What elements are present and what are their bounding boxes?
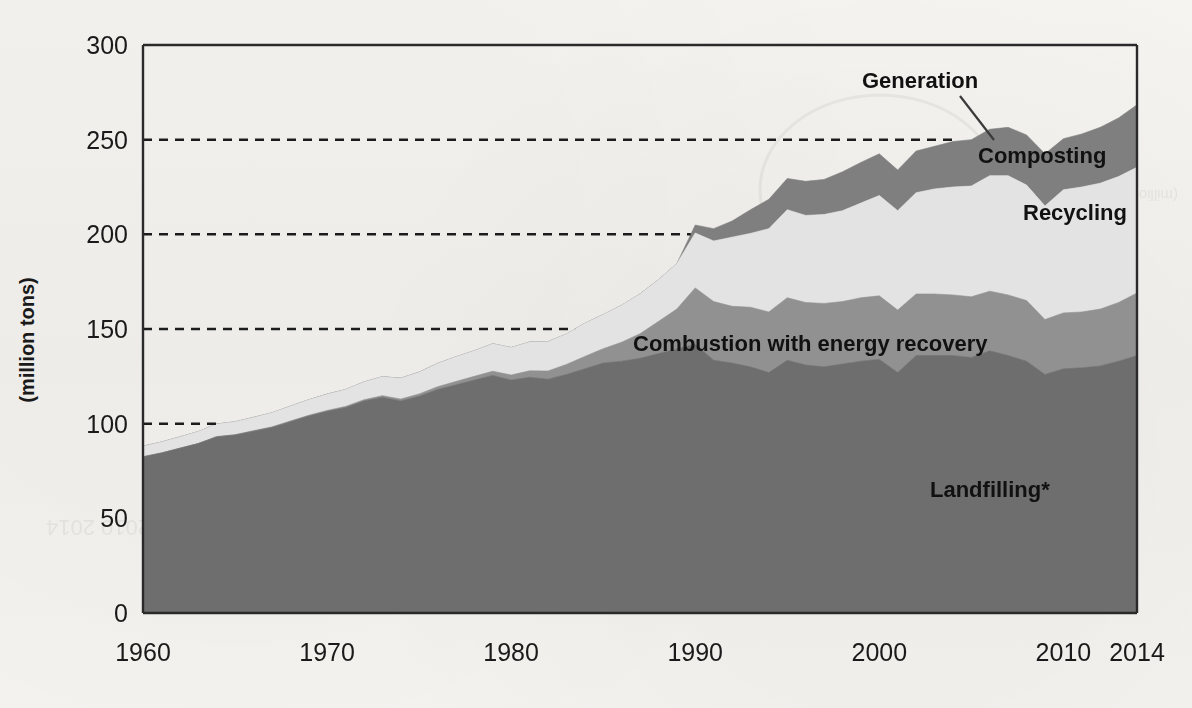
x-tick-label-1990: 1990 bbox=[667, 638, 723, 666]
series-label-recycling: Recycling bbox=[1023, 200, 1127, 225]
x-tick-label-1960: 1960 bbox=[115, 638, 171, 666]
y-tick-label-150: 150 bbox=[86, 315, 128, 343]
series-label-generation: Generation bbox=[862, 68, 978, 93]
y-tick-label-250: 250 bbox=[86, 126, 128, 154]
x-tick-label-2010: 2010 bbox=[1036, 638, 1092, 666]
x-tick-label-1980: 1980 bbox=[483, 638, 539, 666]
x-tick-label-2014: 2014 bbox=[1109, 638, 1165, 666]
x-tick-label-1970: 1970 bbox=[299, 638, 355, 666]
series-label-composting: Composting bbox=[978, 143, 1106, 168]
y-tick-label-0: 0 bbox=[114, 599, 128, 627]
stacked-area-group bbox=[143, 105, 1137, 613]
chart-canvas: (million tons) 2010 2014 050100150200250… bbox=[0, 0, 1192, 708]
x-tick-label-2000: 2000 bbox=[851, 638, 907, 666]
series-label-combustion: Combustion with energy recovery bbox=[633, 331, 988, 356]
x-tick-label-group: 1960197019801990200020102014 bbox=[115, 638, 1165, 666]
y-tick-label-50: 50 bbox=[100, 504, 128, 532]
y-axis-title: (million tons) bbox=[16, 277, 38, 403]
y-tick-label-200: 200 bbox=[86, 220, 128, 248]
y-tick-label-100: 100 bbox=[86, 410, 128, 438]
series-label-landfilling: Landfilling* bbox=[930, 477, 1050, 502]
y-tick-label-300: 300 bbox=[86, 31, 128, 59]
msw-management-area-chart: (million tons) 2010 2014 050100150200250… bbox=[0, 0, 1192, 708]
svg-text:2010 2014: 2010 2014 bbox=[46, 515, 150, 540]
